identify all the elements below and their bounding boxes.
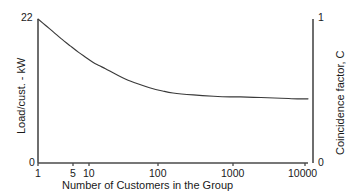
x-axis-tick-label-1000: 1000: [221, 168, 244, 179]
plot-canvas: [0, 0, 348, 195]
x-axis-tick-label-10000: 10000: [288, 168, 317, 179]
x-axis-title: Number of Customers in the Group: [62, 180, 233, 191]
x-axis-tick-label-5: 5: [70, 168, 76, 179]
x-axis-tick-label-100: 100: [149, 168, 167, 179]
right-axis-top-tick-label: 1: [318, 12, 324, 23]
chart-figure: 22 0 1 0 1 5 10 100 1000 10000 Load/cust…: [0, 0, 348, 195]
x-axis-tick-label-10: 10: [83, 168, 95, 179]
right-axis-bottom-tick-label: 0: [318, 157, 324, 168]
left-axis-top-tick-label: 22: [21, 12, 33, 23]
x-axis-tick-label-1: 1: [35, 168, 41, 179]
left-axis-title: Load/cust. - kW: [16, 58, 27, 134]
coincidence-factor-curve: [38, 19, 308, 99]
right-axis-title: Coincidence factor, C: [335, 50, 346, 155]
left-axis-bottom-tick-label: 0: [29, 157, 35, 168]
